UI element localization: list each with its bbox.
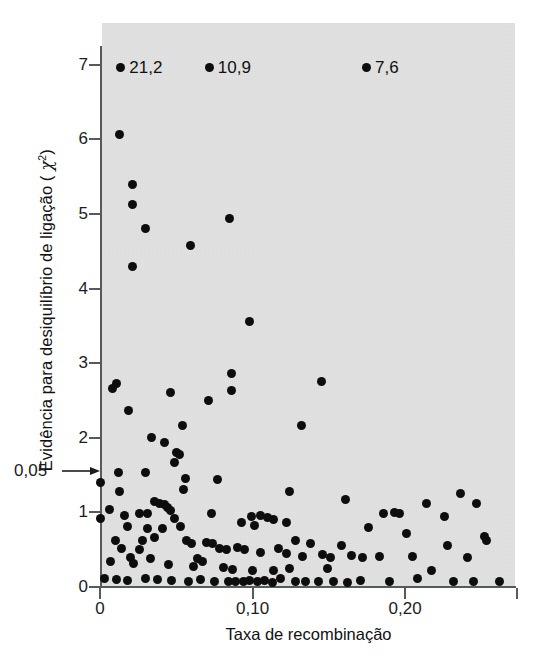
right-arrow-icon (62, 466, 100, 476)
y-tick-label-5: 5 (62, 205, 88, 222)
data-point (343, 578, 352, 587)
y-tick-2 (89, 437, 100, 439)
outlier-callout: 10,9 (205, 59, 251, 76)
data-point (96, 478, 105, 487)
outlier-value-label: 10,9 (218, 59, 251, 76)
data-point (449, 577, 458, 586)
data-point (213, 475, 222, 484)
data-point (337, 541, 346, 550)
data-point (143, 509, 152, 518)
data-point (358, 553, 367, 562)
data-point (146, 554, 155, 563)
data-point (456, 489, 465, 498)
y-tick-7 (89, 64, 100, 66)
data-point (204, 396, 213, 405)
data-point (317, 377, 326, 386)
data-point (123, 576, 132, 585)
data-point (117, 544, 126, 553)
x-tick-0,10 (252, 588, 254, 599)
y-tick-label-2: 2 (62, 429, 88, 446)
data-point (285, 564, 294, 573)
x-tick-0,20 (404, 588, 406, 599)
y-tick-label-0: 0 (62, 578, 88, 595)
data-point (422, 499, 431, 508)
y-tick-label-6: 6 (62, 130, 88, 147)
y-tick-label-7: 7 (62, 56, 88, 73)
data-point (228, 565, 237, 574)
data-point (314, 577, 323, 586)
data-point (326, 553, 335, 562)
data-point (413, 574, 422, 583)
x-tick-label-0,20: 0,20 (389, 600, 422, 617)
y-axis-title: Evidência para desiquilíbrio de ligação … (36, 50, 57, 570)
data-point (495, 577, 504, 586)
data-point (115, 130, 124, 139)
data-point (427, 566, 436, 575)
threshold-label: 0,05 (14, 462, 47, 479)
data-point (364, 523, 373, 532)
y-tick-1 (89, 511, 100, 513)
data-point (227, 369, 236, 378)
x-axis-end-cap (516, 588, 518, 599)
x-axis-line (100, 586, 516, 588)
figure-container: 01234567 00,100,20 Evidência para desiqu… (0, 0, 543, 670)
data-point (225, 214, 234, 223)
data-point (285, 487, 294, 496)
y-tick-label-1: 1 (62, 503, 88, 520)
x-axis-title: Taxa de recombinação (102, 625, 515, 644)
data-point (482, 536, 491, 545)
y-tick-5 (89, 213, 100, 215)
data-point (189, 562, 198, 571)
y-tick-3 (89, 362, 100, 364)
y-tick-6 (89, 138, 100, 140)
data-point (291, 577, 300, 586)
data-point (128, 200, 137, 209)
y-tick-4 (89, 288, 100, 290)
data-point (390, 508, 399, 517)
outlier-callout: 7,6 (362, 59, 399, 76)
data-point (250, 521, 259, 530)
y-tick-label-3: 3 (62, 354, 88, 371)
data-point (108, 384, 117, 393)
data-point (198, 557, 207, 566)
y-tick-label-4: 4 (62, 280, 88, 297)
data-point (282, 549, 291, 558)
data-point (167, 576, 176, 585)
outlier-value-label: 21,2 (129, 59, 162, 76)
data-point (276, 574, 285, 583)
data-point (282, 518, 291, 527)
data-point (158, 524, 167, 533)
x-tick-label-0,10: 0,10 (236, 600, 269, 617)
data-point (105, 505, 114, 514)
data-point (291, 536, 300, 545)
data-point (323, 564, 332, 573)
data-point (114, 468, 123, 477)
outlier-point (116, 63, 125, 72)
data-point (123, 522, 132, 531)
x-tick-label-0: 0 (95, 600, 104, 617)
data-point (375, 552, 384, 561)
data-point (247, 512, 256, 521)
data-point (128, 262, 137, 271)
data-point (178, 421, 187, 430)
data-point (245, 317, 254, 326)
data-point (120, 511, 129, 520)
y-axis-line (100, 46, 102, 588)
outlier-point (362, 63, 371, 72)
data-point (402, 529, 411, 538)
data-point (210, 577, 219, 586)
data-point (186, 241, 195, 250)
outlier-point (205, 63, 214, 72)
x-tick-0 (99, 588, 101, 599)
data-point (256, 548, 265, 557)
data-point (440, 512, 449, 521)
outlier-callout: 21,2 (116, 59, 162, 76)
data-point (96, 514, 105, 523)
data-point (184, 577, 193, 586)
outlier-value-label: 7,6 (375, 59, 399, 76)
data-point (129, 559, 138, 568)
data-point (227, 386, 236, 395)
data-point (128, 180, 137, 189)
data-point (463, 553, 472, 562)
